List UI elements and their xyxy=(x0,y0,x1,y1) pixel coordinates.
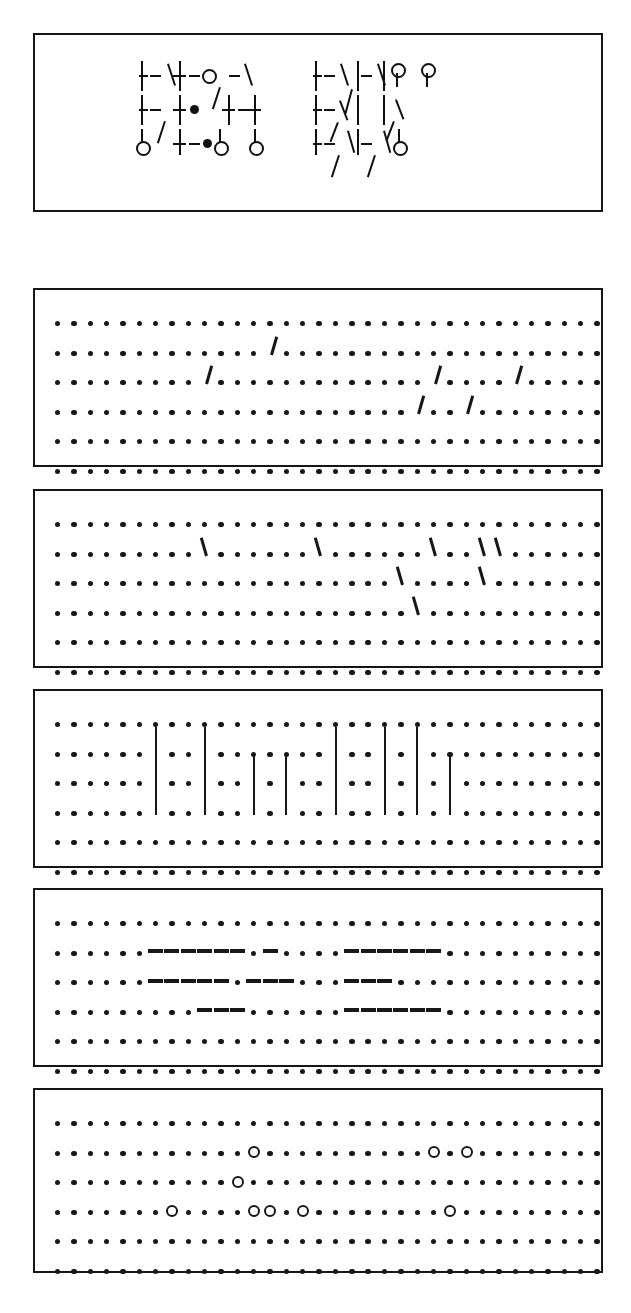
vertical-bar-icon xyxy=(416,727,418,757)
grid-dot-icon xyxy=(169,640,174,645)
grid-cell-dot xyxy=(213,823,230,853)
grid-cell-dot xyxy=(131,993,148,1023)
grid-cell-dot xyxy=(278,1163,295,1193)
grid-dot-icon xyxy=(529,752,534,757)
grid-cell-dot xyxy=(572,735,589,765)
grid-dot-icon xyxy=(104,1151,109,1156)
grid-dot-icon xyxy=(169,1039,174,1044)
grid-dot-icon xyxy=(104,1069,109,1074)
grid-dot-icon xyxy=(55,611,60,616)
grid-dot-icon xyxy=(316,439,321,444)
grid-cell-dot xyxy=(392,393,409,423)
grid-dot-icon xyxy=(251,439,256,444)
grid-dot-icon xyxy=(235,781,240,786)
grid-cell-dot xyxy=(49,1163,66,1193)
grid-dot-icon xyxy=(398,980,403,985)
grid-dot-icon xyxy=(431,1069,436,1074)
cross-junction-hdash xyxy=(139,109,148,111)
cross-junction-hdash xyxy=(313,109,322,111)
grid-dot-icon xyxy=(120,722,125,727)
grid-dot-icon xyxy=(529,722,534,727)
grid-dot-icon xyxy=(447,1239,452,1244)
grid-dot-icon xyxy=(398,351,403,356)
grid-dot-icon xyxy=(382,870,387,875)
grid-cell-dot xyxy=(327,1193,344,1223)
grid-dot-icon xyxy=(431,1269,436,1274)
grid-cell-dot xyxy=(343,853,360,883)
grid-cell-horizontal-dash xyxy=(392,934,409,964)
x-crossing-forward xyxy=(329,122,338,142)
grid-dot-icon xyxy=(71,439,76,444)
grid-dot-icon xyxy=(300,870,305,875)
grid-cell-dot xyxy=(49,452,66,482)
grid-dot-icon xyxy=(447,410,452,415)
grid-dot-icon xyxy=(562,722,567,727)
vertical-bar-icon xyxy=(416,786,418,815)
grid-cell-dot xyxy=(589,853,606,883)
grid-cell-dot xyxy=(327,853,344,883)
grid-cell-dot xyxy=(311,1022,328,1052)
grid-dot-icon xyxy=(464,1239,469,1244)
grid-dot-icon xyxy=(153,640,158,645)
grid-cell-dot xyxy=(523,422,540,452)
grid-cell-dot xyxy=(245,653,262,683)
grid-cell-horizontal-dash xyxy=(262,934,279,964)
grid-cell-dot xyxy=(376,393,393,423)
grid-cell-dot xyxy=(376,564,393,594)
grid-cell-dot xyxy=(458,594,475,624)
grid-dot-icon xyxy=(529,811,534,816)
grid-dot-icon xyxy=(415,1069,420,1074)
grid-dot-icon xyxy=(578,351,583,356)
grid-dot-icon xyxy=(218,921,223,926)
grid-cell-dot xyxy=(392,1163,409,1193)
grid-dot-icon xyxy=(529,840,534,845)
grid-dot-icon xyxy=(382,581,387,586)
grid-dot-icon xyxy=(55,522,60,527)
grid-dot-icon xyxy=(529,439,534,444)
grid-dot-icon xyxy=(496,439,501,444)
grid-cell-dot xyxy=(474,363,491,393)
grid-cell-dot xyxy=(360,794,377,824)
grid-dot-icon xyxy=(120,581,125,586)
grid-cell-dot xyxy=(82,334,99,364)
grid-cell-dot xyxy=(213,735,230,765)
grid-cell-dot xyxy=(294,904,311,934)
grid-cell-dot xyxy=(82,993,99,1023)
back-slash-icon xyxy=(412,596,420,615)
grid-dot-icon xyxy=(382,1210,387,1215)
grid-cell-dot xyxy=(343,1104,360,1134)
grid-cell-dot xyxy=(229,334,246,364)
grid-cell-dot xyxy=(245,623,262,653)
grid-cell-dot xyxy=(458,334,475,364)
grid-row xyxy=(49,823,591,853)
grid-dot-icon xyxy=(545,781,550,786)
grid-cell-dot xyxy=(262,505,279,535)
grid-cell-dot xyxy=(458,535,475,565)
grid-dot-icon xyxy=(55,1210,60,1215)
grid-dot-icon xyxy=(365,1180,370,1185)
grid-cell-dot xyxy=(311,764,328,794)
grid-dot-icon xyxy=(88,1151,93,1156)
grid-dot-icon xyxy=(545,552,550,557)
grid-cell-dot xyxy=(392,1222,409,1252)
grid-cell-dot xyxy=(311,393,328,423)
grid-cell-dot xyxy=(392,452,409,482)
grid-dot-icon xyxy=(267,321,272,326)
grid-dot-icon xyxy=(594,1269,599,1274)
grid-dot-icon xyxy=(382,640,387,645)
grid-cell-dot xyxy=(343,452,360,482)
grid-dot-icon xyxy=(71,640,76,645)
grid-cell-dot xyxy=(507,505,524,535)
grid-dot-icon xyxy=(333,1039,338,1044)
grid-dot-icon xyxy=(88,1269,93,1274)
grid-cell-dot xyxy=(65,623,82,653)
grid-cell-dot xyxy=(180,334,197,364)
grid-dot-icon xyxy=(529,670,534,675)
grid-cell-dot xyxy=(131,1163,148,1193)
grid-cell-dot xyxy=(147,904,164,934)
grid-cell-dot xyxy=(376,1022,393,1052)
grid-dot-icon xyxy=(382,611,387,616)
grid-cell-dot xyxy=(114,1222,131,1252)
grid-dot-icon xyxy=(415,921,420,926)
grid-cell-dot xyxy=(311,1104,328,1134)
